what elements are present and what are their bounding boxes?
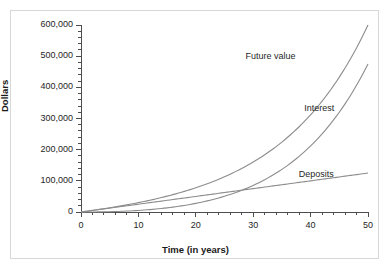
x-tick-label: 20 — [176, 220, 216, 230]
y-tick-label: 600,000 — [7, 19, 73, 29]
x-tick-label: 40 — [291, 220, 331, 230]
chart-curves — [81, 25, 368, 212]
y-tick-label: 0 — [7, 206, 73, 216]
series-annotation: Future value — [245, 51, 295, 61]
x-tick-label: 30 — [233, 220, 273, 230]
chart-axes — [76, 25, 368, 217]
x-tick-label: 10 — [118, 220, 158, 230]
y-tick-label: 100,000 — [7, 175, 73, 185]
series-line-deposits — [81, 173, 368, 212]
series-line-future-value — [81, 25, 368, 212]
series-annotation: Deposits — [299, 169, 334, 179]
y-tick-label: 400,000 — [7, 81, 73, 91]
y-tick-label: 300,000 — [7, 113, 73, 123]
y-tick-label: 200,000 — [7, 144, 73, 154]
x-tick-label: 0 — [61, 220, 101, 230]
y-tick-label: 500,000 — [7, 50, 73, 60]
compound-interest-chart — [0, 0, 391, 271]
x-axis-title: Time (in years) — [0, 244, 391, 255]
series-annotation: Interest — [304, 103, 334, 113]
series-line-interest — [81, 64, 368, 212]
x-tick-label: 50 — [348, 220, 388, 230]
